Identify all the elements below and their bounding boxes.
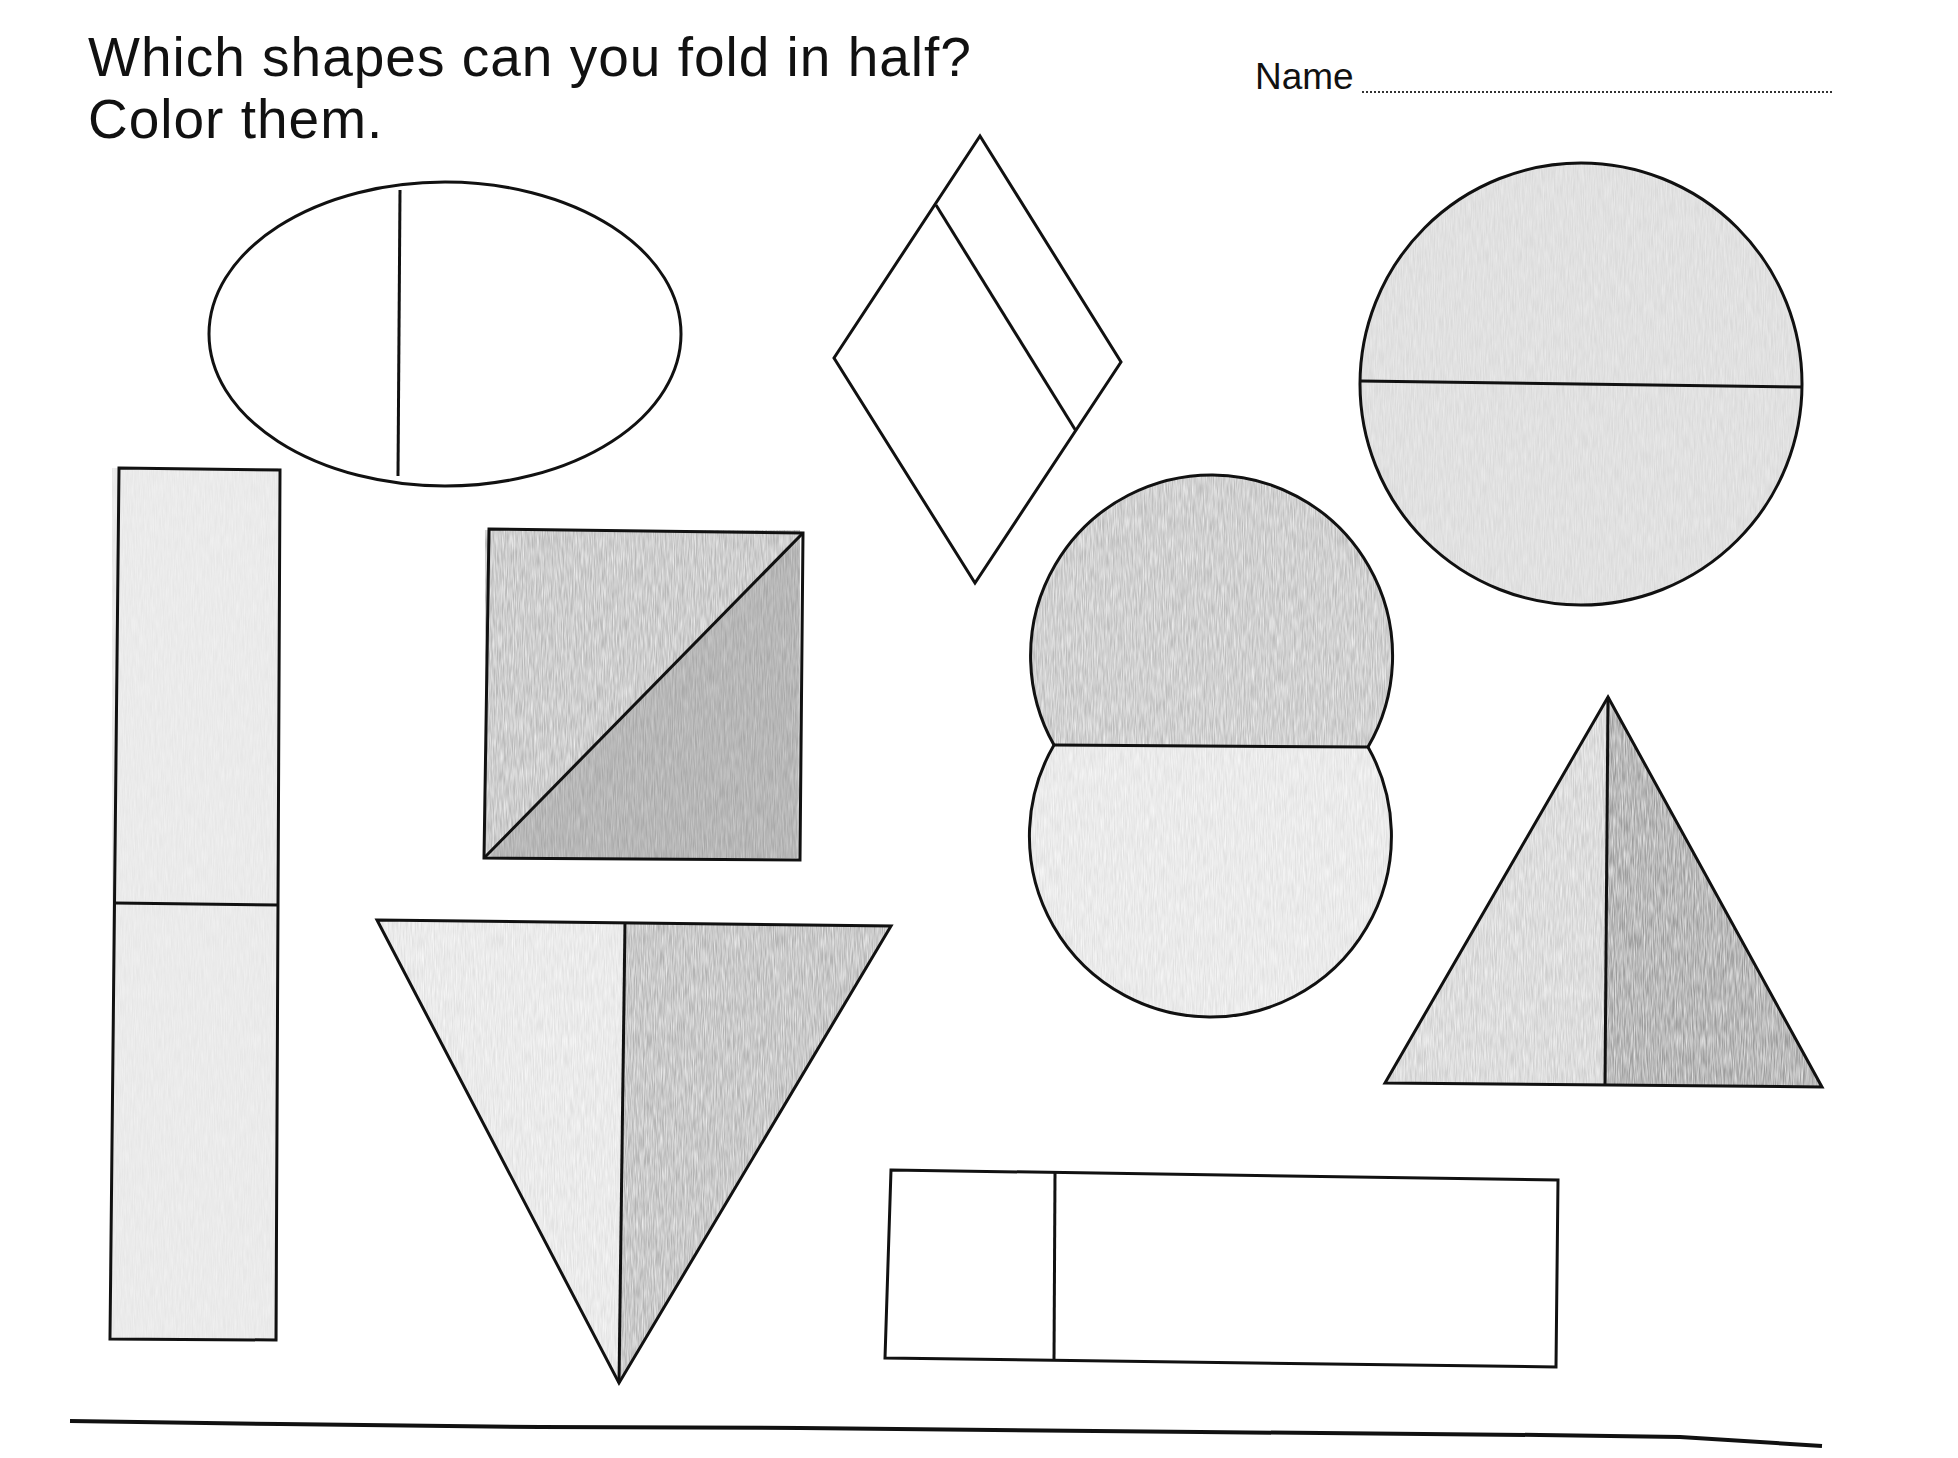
tall-rectangle-fold-line — [115, 903, 278, 905]
oval-shape[interactable] — [209, 182, 681, 486]
double-circle-fold-line — [1054, 745, 1368, 747]
double-circle-shape[interactable] — [1029, 475, 1392, 1017]
oval-fold-line — [398, 190, 400, 476]
wide-rectangle-fold-line — [1054, 1173, 1055, 1361]
rhombus-shape[interactable] — [834, 136, 1121, 583]
worksheet-canvas — [0, 0, 1958, 1458]
square-shape[interactable] — [484, 529, 803, 860]
tall-rectangle-shape[interactable] — [110, 468, 280, 1340]
down-triangle-shape[interactable] — [377, 920, 891, 1383]
bottom-rule-line — [70, 1421, 1822, 1446]
wide-rectangle-shape[interactable] — [885, 1170, 1558, 1367]
rhombus-fold-line — [936, 205, 1076, 431]
circle-shape[interactable] — [1360, 163, 1802, 605]
up-triangle-shape[interactable] — [1385, 697, 1822, 1087]
